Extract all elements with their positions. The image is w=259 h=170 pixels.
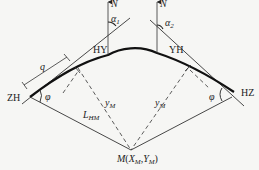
q-label: q	[40, 61, 45, 72]
curve-setting-out-diagram: N N α1 α2 HY YH q ZH HZ φ φ yM yM LHM M(…	[0, 0, 259, 170]
alpha1-label: α1	[111, 13, 120, 26]
point-label-hz: HZ	[241, 87, 254, 98]
diagram-canvas: N N α1 α2 HY YH q ZH HZ φ φ yM yM LHM M(…	[0, 0, 259, 170]
point-label-hy: HY	[93, 44, 107, 55]
q-dimension-line	[24, 57, 67, 85]
route-curve	[30, 48, 234, 97]
north-label-right: N	[159, 0, 168, 9]
ym-label-right: yM	[154, 97, 166, 110]
point-label-yh: YH	[169, 44, 183, 55]
phi-arc-right	[220, 88, 222, 101]
ym-label-left: yM	[104, 97, 116, 110]
dashed-offset-right	[190, 70, 210, 89]
lhm-label: LHM	[82, 109, 101, 122]
tangent-line-right	[150, 20, 244, 106]
alpha2-label: α2	[165, 17, 174, 30]
q-tick-start	[22, 82, 27, 89]
line-hz-to-m	[131, 97, 232, 150]
point-label-zh: ZH	[7, 92, 20, 103]
point-label-m: M(XM,YM)	[116, 153, 158, 166]
phi-label-left: φ	[45, 91, 51, 102]
phi-label-right: φ	[209, 91, 215, 102]
phi-arc-left	[40, 90, 42, 102]
q-tick-end	[64, 54, 70, 61]
line-zh-to-m	[30, 97, 131, 150]
north-label-left: N	[110, 0, 119, 9]
